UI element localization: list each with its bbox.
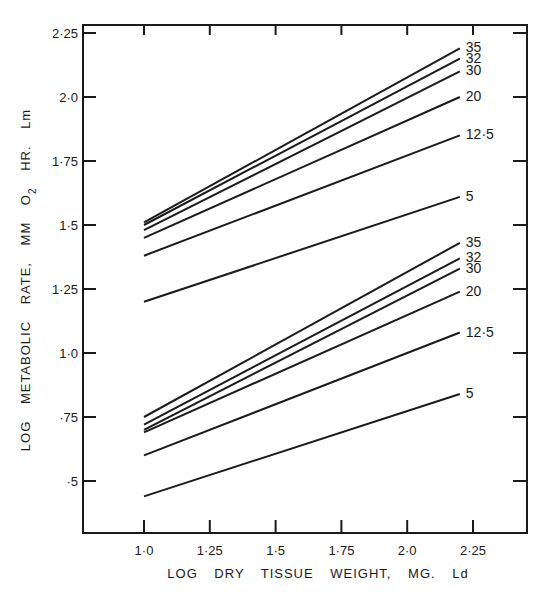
series-label: 35	[466, 234, 482, 250]
x-tick-label: 2·25	[460, 543, 486, 558]
x-tick-label: 1·25	[197, 543, 223, 558]
x-tick-label: 1·75	[328, 543, 354, 558]
series-label: 20	[466, 88, 482, 104]
y-tick-label: 2·0	[59, 90, 78, 105]
y-axis-ticks: 2·252·01·751·51·251·0·75·5	[52, 26, 527, 489]
x-tick-label: 1·5	[266, 543, 285, 558]
y-tick-label: ·5	[66, 474, 78, 489]
y-tick-label: 1·25	[52, 282, 78, 297]
series-label: 30	[466, 62, 482, 78]
x-tick-label: 2·0	[398, 543, 417, 558]
series-line-12-5	[144, 333, 460, 456]
y-tick-label: 2·25	[52, 26, 78, 41]
series-label: 12·5	[466, 324, 494, 340]
series-line-20	[144, 97, 460, 238]
series-line-20	[144, 292, 460, 433]
series-label: 30	[466, 260, 482, 276]
x-axis-ticks: 1·01·251·51·752·02·25	[135, 25, 486, 558]
y-tick-label: 1·0	[59, 346, 78, 361]
series-line-32	[144, 258, 460, 424]
plot-border	[83, 25, 527, 533]
series-line-32	[144, 59, 460, 225]
y-tick-label: 1·5	[59, 218, 78, 233]
series-line-5	[144, 197, 460, 302]
metabolic-rate-chart: 2·252·01·751·51·251·0·75·5 1·01·251·51·7…	[0, 0, 553, 595]
series-labels: 3532302012·553532302012·55	[466, 39, 494, 401]
series-line-35	[144, 243, 460, 417]
series-line-30	[144, 71, 460, 230]
x-axis-title: LOG DRY TISSUE WEIGHT, MG. Ld	[167, 566, 468, 581]
series-label: 5	[466, 188, 474, 204]
y-tick-label: ·75	[59, 410, 78, 425]
series-label: 5	[466, 385, 474, 401]
x-tick-label: 1·0	[135, 543, 154, 558]
series-label: 12·5	[466, 126, 494, 142]
series-line-30	[144, 269, 460, 430]
y-tick-label: 1·75	[52, 154, 78, 169]
data-lines	[144, 48, 460, 496]
y-axis-title: LOG METABOLIC RATE, MM O2 HR. Lm	[18, 109, 38, 451]
series-line-5	[144, 394, 460, 496]
plot-frame	[83, 25, 527, 533]
series-label: 20	[466, 283, 482, 299]
